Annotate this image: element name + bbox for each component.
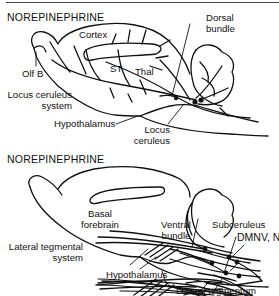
panel-1-title: NOREPINEPHRINE [7,11,104,23]
locus-ceruleus-dot [192,99,197,104]
label-dorsal-bundle: Dorsal bundle [206,12,235,34]
label-hypothalamus: Hypothalamus [54,118,115,129]
label-olf-b: Olf B [22,68,43,79]
label-subceruleus: Subceruleus [212,219,265,230]
subceruleus-dot [203,247,208,252]
panel-2-title: NOREPINEPHRINE [7,153,104,165]
label-dmnv-nts: DMNV, NTS [237,232,279,243]
label-lateral-tegmentum: Lateral tegmentum [176,285,256,296]
panel-lateral-tegmental: NOREPINEPHRINE Basal forebrain Lateral t… [0,145,279,296]
label-basal-forebrain: Basal forebrain [80,208,120,230]
dmnv-dot [227,255,232,260]
label-hypothalamus: Hypothalamus [106,269,167,280]
label-locus-ceruleus: Locus ceruleus [128,124,170,146]
label-thal: Thal [135,66,154,77]
label-st: ST [110,63,122,74]
panel-locus-ceruleus: NOREPINEPHRINE Cortex ST Thal Olf B Locu… [0,0,279,145]
label-ventral-bundle: Ventral bundle [156,219,196,241]
label-cortex: Cortex [79,29,107,40]
nts-dot [235,260,240,265]
label-system-name: Lateral tegmental system [6,241,83,263]
lateral-tegmentum-dot [224,271,229,276]
label-system-name: Locus ceruleus system [6,89,72,111]
